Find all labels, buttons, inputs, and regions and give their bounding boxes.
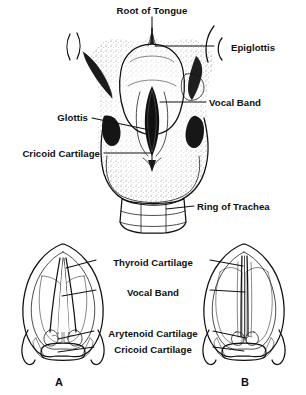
label-cricoid-cartilage-lower: Cricoid Cartilage (114, 344, 192, 355)
label-vocal-band-upper: Vocal Band (209, 97, 261, 108)
label-root-of-tongue: Root of Tongue (117, 5, 188, 16)
label-arytenoid-cartilage: Arytenoid Cartilage (108, 328, 197, 339)
label-ring-of-trachea: Ring of Trachea (197, 201, 270, 212)
caption-diagram-b: B (241, 376, 249, 388)
label-glottis: Glottis (57, 112, 88, 123)
label-epiglottis: Epiglottis (231, 42, 275, 53)
larynx-anatomy-figure: Root of Tongue Epiglottis Vocal Band Glo… (0, 0, 306, 395)
label-vocal-band-lower: Vocal Band (127, 287, 179, 298)
label-cricoid-cartilage-upper: Cricoid Cartilage (22, 148, 100, 159)
caption-diagram-a: A (55, 376, 63, 388)
label-thyroid-cartilage: Thyroid Cartilage (113, 257, 193, 268)
